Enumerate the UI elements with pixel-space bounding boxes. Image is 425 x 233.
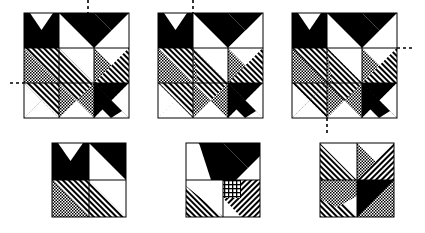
block1-cell-r0c2	[94, 13, 129, 48]
block5-cell-r1c0	[186, 180, 223, 217]
quilt-block-2	[158, 0, 263, 118]
quilt-block-5	[186, 143, 260, 217]
block6-cell-r1c1	[357, 180, 394, 217]
block4-cell-r1c0	[52, 180, 89, 217]
block3-cell-r2c0	[292, 83, 327, 118]
block2-cell-r0c0	[158, 13, 193, 48]
block2-cell-r1c1	[193, 48, 228, 83]
quilt-block-4	[52, 143, 126, 217]
block1-cell-r1c0	[24, 48, 59, 83]
block5-cell-r0c1	[223, 143, 260, 180]
quilt-figure	[0, 0, 425, 233]
block1-cell-r0c1	[59, 13, 94, 48]
block2-cell-r2c0	[158, 83, 193, 118]
block2-cell-r1c0	[158, 48, 193, 83]
block3-cell-r0c2	[362, 13, 397, 48]
block1-cell-r2c0	[24, 83, 59, 118]
block2-cell-r0c2	[228, 13, 263, 48]
block1-cell-r0c0	[24, 13, 59, 48]
block3-cell-r0c0	[292, 13, 327, 48]
block1-cell-r2c2	[94, 83, 129, 118]
block2-cell-r2c2	[228, 83, 263, 118]
block2-cell-r2c1	[193, 83, 228, 118]
block3-cell-r2c1	[327, 83, 362, 118]
block5-cell-r0c0	[186, 143, 223, 180]
block3-cell-r1c1	[327, 48, 362, 83]
block2-cell-r0c1	[193, 13, 228, 48]
block1-cell-r1c1	[59, 48, 94, 83]
block4-cell-r0c1	[89, 143, 126, 180]
block4-cell-r0c0	[52, 143, 89, 180]
block6-cell-r1c0	[320, 180, 357, 217]
block4-cell-r1c1	[89, 180, 126, 217]
block3-cell-r0c1	[327, 13, 362, 48]
block1-cell-r2c1	[59, 83, 94, 118]
block3-cell-r2c2	[362, 83, 397, 118]
quilt-block-3	[292, 13, 414, 134]
block5-cell-r1c1	[223, 180, 260, 217]
quilt-figure-canvas	[0, 0, 425, 233]
quilt-block-6	[320, 143, 394, 217]
block1-cell-r1c2	[94, 48, 129, 83]
block3-cell-r1c2	[362, 48, 397, 83]
block6-cell-r0c0	[320, 143, 357, 180]
block6-cell-r0c1	[357, 143, 394, 180]
block2-cell-r1c2	[228, 48, 263, 83]
block3-cell-r1c0	[292, 48, 327, 83]
quilt-block-1	[10, 0, 129, 118]
